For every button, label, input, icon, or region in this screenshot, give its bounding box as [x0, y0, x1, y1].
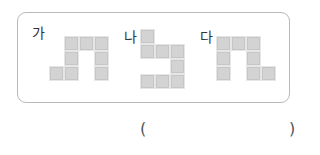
- square-cell: [94, 36, 109, 51]
- square-cell: [64, 66, 79, 81]
- square-cell: [170, 74, 185, 89]
- square-cell: [155, 74, 170, 89]
- figure-label-da: 다: [200, 30, 213, 44]
- square-cell: [170, 44, 185, 59]
- square-cell: [140, 29, 155, 44]
- square-cell: [261, 66, 276, 81]
- figure-label-ga: 가: [32, 26, 45, 40]
- square-cell: [94, 51, 109, 66]
- square-cell: [49, 66, 64, 81]
- square-cell: [140, 74, 155, 89]
- square-cell: [64, 51, 79, 66]
- square-cell: [155, 44, 170, 59]
- square-cell: [216, 36, 231, 51]
- answer-open-paren: (: [140, 121, 146, 137]
- square-cell: [94, 66, 109, 81]
- square-cell: [216, 66, 231, 81]
- square-cell: [246, 36, 261, 51]
- square-cell: [79, 36, 94, 51]
- square-cell: [231, 36, 246, 51]
- figure-label-na: 나: [124, 30, 137, 44]
- square-cell: [64, 36, 79, 51]
- square-cell: [140, 44, 155, 59]
- square-cell: [170, 59, 185, 74]
- square-cell: [246, 66, 261, 81]
- answer-close-paren: ): [289, 121, 295, 137]
- square-cell: [216, 51, 231, 66]
- square-cell: [246, 51, 261, 66]
